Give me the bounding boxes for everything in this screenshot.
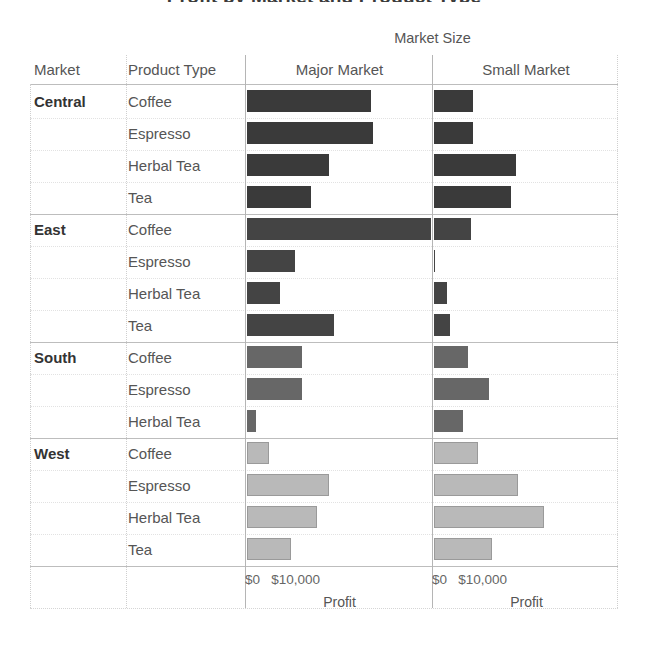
bar-east-coffee-major[interactable] <box>247 218 431 240</box>
bar-south-espresso-small[interactable] <box>434 378 489 400</box>
product-label-espresso: Espresso <box>128 246 191 278</box>
product-label-herbal-tea: Herbal Tea <box>128 150 200 182</box>
row-rule <box>30 278 618 279</box>
bar-east-tea-major[interactable] <box>247 314 334 336</box>
bar-west-espresso-major[interactable] <box>247 474 329 496</box>
bar-west-herbal-tea-small[interactable] <box>434 506 544 528</box>
product-label-tea: Tea <box>128 534 152 566</box>
axis-tick-zero-major: $0 <box>245 572 260 587</box>
column-header-product-type: Product Type <box>128 57 238 83</box>
bar-east-herbal-tea-small[interactable] <box>434 282 447 304</box>
market-group-rule <box>30 566 618 567</box>
column-header-market: Market <box>34 57 124 83</box>
bar-east-herbal-tea-major[interactable] <box>247 282 280 304</box>
viz-canvas: Profit by Market and Product Type Market… <box>0 0 648 650</box>
bar-east-tea-small[interactable] <box>434 314 450 336</box>
bar-east-espresso-small[interactable] <box>434 250 435 272</box>
bar-west-espresso-small[interactable] <box>434 474 518 496</box>
column-header-major-market: Major Market <box>247 57 432 83</box>
bar-south-herbal-tea-small[interactable] <box>434 410 463 432</box>
axis-title-profit-small: Profit <box>434 594 619 610</box>
bar-central-tea-small[interactable] <box>434 186 511 208</box>
bar-west-coffee-major[interactable] <box>247 442 269 464</box>
market-size-super-header: Market Size <box>247 30 618 46</box>
bar-east-espresso-major[interactable] <box>247 250 295 272</box>
market-label-central: Central <box>34 86 86 118</box>
bar-south-herbal-tea-major[interactable] <box>247 410 256 432</box>
bar-east-coffee-small[interactable] <box>434 218 471 240</box>
table-left-edge <box>30 84 31 608</box>
market-label-east: East <box>34 214 66 246</box>
row-rule <box>30 118 618 119</box>
bar-west-coffee-small[interactable] <box>434 442 478 464</box>
product-label-tea: Tea <box>128 182 152 214</box>
row-rule <box>30 150 618 151</box>
col-sep-market <box>126 55 127 608</box>
bar-south-espresso-major[interactable] <box>247 378 302 400</box>
header-rule <box>30 84 618 85</box>
bar-central-tea-major[interactable] <box>247 186 311 208</box>
market-label-west: West <box>34 438 70 470</box>
product-label-coffee: Coffee <box>128 342 172 374</box>
bar-west-tea-small[interactable] <box>434 538 492 560</box>
row-rule <box>30 470 618 471</box>
col-sep-small <box>432 55 433 608</box>
row-rule <box>30 502 618 503</box>
row-rule <box>30 182 618 183</box>
bar-west-herbal-tea-major[interactable] <box>247 506 317 528</box>
bar-central-espresso-major[interactable] <box>247 122 373 144</box>
bar-central-herbal-tea-major[interactable] <box>247 154 329 176</box>
product-label-coffee: Coffee <box>128 86 172 118</box>
market-group-rule <box>30 342 618 343</box>
axis-title-profit-major: Profit <box>247 594 432 610</box>
product-label-herbal-tea: Herbal Tea <box>128 502 200 534</box>
bar-central-coffee-small[interactable] <box>434 90 473 112</box>
market-label-south: South <box>34 342 77 374</box>
product-label-espresso: Espresso <box>128 470 191 502</box>
chart-title: Profit by Market and Product Type <box>0 0 648 2</box>
bar-west-tea-major[interactable] <box>247 538 291 560</box>
axis-tick-zero-small: $0 <box>432 572 447 587</box>
bar-central-herbal-tea-small[interactable] <box>434 154 516 176</box>
row-rule <box>30 310 618 311</box>
col-sep-major <box>245 55 246 608</box>
bar-south-coffee-major[interactable] <box>247 346 302 368</box>
axis-tick-ten-thousand-major: $10,000 <box>271 572 320 587</box>
axis-tick-ten-thousand-small: $10,000 <box>458 572 507 587</box>
bar-south-coffee-small[interactable] <box>434 346 468 368</box>
column-header-small-market: Small Market <box>434 57 618 83</box>
row-rule <box>30 534 618 535</box>
col-sep-right <box>617 55 618 608</box>
product-label-herbal-tea: Herbal Tea <box>128 406 200 438</box>
bar-central-espresso-small[interactable] <box>434 122 473 144</box>
product-label-espresso: Espresso <box>128 374 191 406</box>
row-rule <box>30 374 618 375</box>
product-label-herbal-tea: Herbal Tea <box>128 278 200 310</box>
product-label-coffee: Coffee <box>128 438 172 470</box>
row-rule <box>30 406 618 407</box>
bar-central-coffee-major[interactable] <box>247 90 371 112</box>
market-group-rule <box>30 214 618 215</box>
product-label-tea: Tea <box>128 310 152 342</box>
product-label-espresso: Espresso <box>128 118 191 150</box>
row-rule <box>30 246 618 247</box>
market-group-rule <box>30 438 618 439</box>
product-label-coffee: Coffee <box>128 214 172 246</box>
